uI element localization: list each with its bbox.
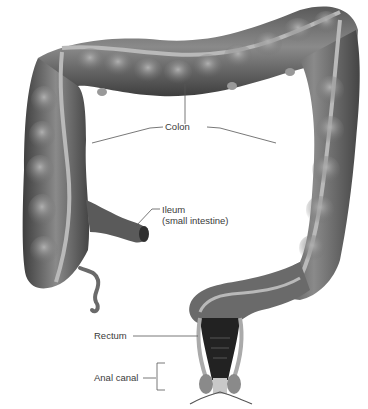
ileum-sublabel: (small intestine) <box>162 215 229 226</box>
rectum <box>190 318 252 404</box>
rectum-label: Rectum <box>94 330 127 341</box>
colon-label: Colon <box>165 121 190 132</box>
anal-canal-label: Anal canal <box>94 372 138 383</box>
sigmoid-colon <box>189 262 310 324</box>
ileum-label: Ileum <box>162 204 185 215</box>
ascending-colon <box>23 52 89 288</box>
ileum <box>80 200 149 311</box>
